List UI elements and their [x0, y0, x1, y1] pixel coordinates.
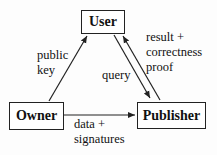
node-user: User: [81, 10, 125, 34]
edge-label-result-proof: result + correctness proof: [146, 30, 202, 75]
node-publisher-label: Publisher: [143, 108, 201, 124]
node-publisher: Publisher: [137, 102, 206, 129]
arrow-user-to-publisher: [114, 35, 150, 98]
node-user-label: User: [89, 14, 117, 30]
node-owner: Owner: [9, 102, 64, 130]
node-owner-label: Owner: [16, 108, 57, 124]
diagram-canvas: User Owner Publisher public key query re…: [0, 0, 217, 155]
edge-label-data-signatures: data + signatures: [74, 117, 125, 147]
edge-label-query: query: [102, 68, 130, 83]
edge-label-public-key: public key: [37, 48, 68, 78]
